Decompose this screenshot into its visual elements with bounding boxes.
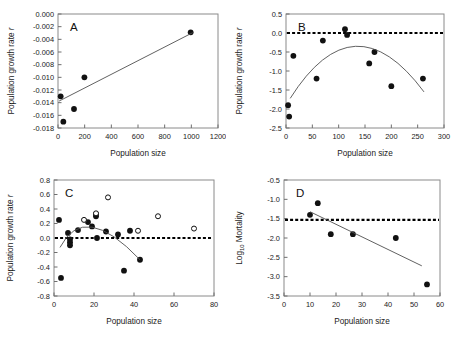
x-axis-title: Population size	[110, 149, 166, 158]
y-axis-title-base: Log	[235, 251, 244, 265]
data-point-filled	[67, 242, 73, 248]
x-tick-label: 600	[132, 132, 144, 141]
y-tick-label: 0.4	[40, 205, 50, 214]
y-tick-label: -0.016	[33, 111, 54, 120]
x-tick-label: 0	[282, 300, 286, 309]
data-point-filled	[56, 217, 62, 223]
panel-c-axes: 0204060800.80.60.40.20.0-0.2-0.4-0.6-0.8…	[6, 176, 218, 326]
y-tick-label: 0.0	[272, 29, 282, 38]
y-tick-label: 0.8	[40, 176, 50, 185]
y-tick-label: 0.6	[40, 190, 50, 199]
y-axis-title-rest: Mortality	[235, 210, 244, 244]
y-tick-label: -0.002	[33, 22, 54, 31]
plot-frame	[284, 180, 440, 296]
x-tick-label: 200	[385, 132, 397, 141]
panel-letter: D	[296, 187, 304, 199]
data-point-filled	[121, 268, 127, 274]
y-tick-label: -0.008	[33, 60, 54, 69]
x-axis-title: Population size	[334, 317, 390, 326]
data-point-filled	[89, 224, 95, 230]
y-tick-label: -0.012	[33, 86, 54, 95]
y-tick-label: -0.5	[269, 48, 282, 57]
panel-c: 0204060800.80.60.40.20.0-0.2-0.4-0.6-0.8…	[0, 171, 226, 342]
data-point-filled	[424, 282, 430, 288]
x-axis-title: Population size	[106, 317, 162, 326]
data-point-filled	[393, 235, 399, 241]
data-point-filled	[320, 38, 326, 44]
data-point-open	[192, 226, 197, 231]
panel-a: 0200400600800100012000.000-0.002-0.004-0…	[0, 0, 226, 171]
panel-letter: B	[298, 21, 306, 33]
y-tick-label: -0.6	[37, 277, 50, 286]
panel-b: 0501001502002503000.50.0-0.5-1.0-1.5-2.0…	[226, 0, 452, 171]
plot-frame	[286, 14, 444, 128]
y-tick-label: -3.5	[267, 292, 280, 301]
x-tick-label: 40	[130, 300, 138, 309]
data-point-open	[156, 214, 161, 219]
x-tick-label: 800	[158, 132, 170, 141]
x-axis-title: Population size	[337, 149, 393, 158]
data-point-open	[82, 217, 87, 222]
data-point-filled	[388, 83, 394, 89]
y-tick-label: -0.010	[33, 73, 54, 82]
x-tick-label: 80	[210, 300, 218, 309]
y-axis-title-symbol: r	[7, 27, 16, 30]
data-point-filled	[342, 26, 348, 32]
panel-d: 0102030405060-0.5-1.0-1.5-2.0-2.5-3.0-3.…	[226, 171, 452, 342]
y-tick-label: -1.0	[267, 195, 280, 204]
figure-container: 0200400600800100012000.000-0.002-0.004-0…	[0, 0, 452, 342]
y-tick-label: -0.004	[33, 35, 54, 44]
data-point-filled	[71, 106, 77, 112]
y-axis-title: Population growth rate r	[6, 194, 15, 281]
x-tick-label: 250	[411, 132, 423, 141]
data-point-open	[136, 228, 141, 233]
data-point-filled	[314, 76, 320, 82]
data-point-filled	[366, 61, 372, 67]
data-point-filled	[115, 231, 121, 237]
y-tick-label: -0.006	[33, 48, 54, 57]
panel-d-plot: 0102030405060-0.5-1.0-1.5-2.0-2.5-3.0-3.…	[226, 171, 452, 342]
x-tick-label: 0	[284, 132, 288, 141]
panel-c-plot: 0204060800.80.60.40.20.0-0.2-0.4-0.6-0.8…	[0, 171, 226, 342]
y-tick-label: -1.0	[269, 67, 282, 76]
data-point-filled	[286, 114, 292, 120]
y-axis-title: Population growth rate r	[235, 27, 244, 114]
y-tick-label: 0.2	[40, 219, 50, 228]
y-tick-label: 0.0	[40, 234, 50, 243]
y-tick-label: -2.0	[269, 105, 282, 114]
y-tick-label: -0.4	[37, 263, 50, 272]
y-axis-title: Log10 Mortality	[235, 210, 245, 264]
x-tick-label: 60	[436, 300, 444, 309]
y-tick-label: -3.0	[267, 272, 280, 281]
x-tick-label: 400	[105, 132, 117, 141]
panel-letter: C	[65, 187, 73, 199]
x-tick-label: 200	[78, 132, 90, 141]
data-point-filled	[127, 228, 133, 234]
y-tick-label: -2.5	[267, 253, 280, 262]
y-tick-label: -0.5	[267, 176, 280, 185]
panel-d-axes: 0102030405060-0.5-1.0-1.5-2.0-2.5-3.0-3.…	[235, 176, 444, 326]
x-tick-label: 0	[52, 300, 56, 309]
panel-letter: A	[70, 21, 78, 33]
x-tick-label: 40	[384, 300, 392, 309]
data-point-filled	[58, 93, 64, 99]
y-axis-title-symbol: r	[6, 194, 15, 197]
panel-a-axes: 0200400600800100012000.000-0.002-0.004-0…	[7, 10, 226, 158]
y-tick-label: -0.2	[37, 248, 50, 257]
x-tick-label: 60	[170, 300, 178, 309]
data-point-open	[106, 195, 111, 200]
x-tick-label: 150	[359, 132, 371, 141]
x-tick-label: 1200	[210, 132, 226, 141]
data-point-open	[94, 211, 99, 216]
y-tick-label: -1.5	[267, 214, 280, 223]
y-tick-label: -0.8	[37, 292, 50, 301]
y-tick-label: -2.5	[269, 124, 282, 133]
data-point-filled	[315, 200, 321, 206]
y-axis-title-base: Population growth rate	[7, 30, 16, 114]
x-tick-label: 30	[358, 300, 366, 309]
x-tick-label: 1000	[183, 132, 199, 141]
data-point-filled	[82, 74, 88, 80]
data-point-filled	[65, 230, 71, 236]
x-tick-label: 10	[306, 300, 314, 309]
data-point-filled	[328, 231, 334, 237]
